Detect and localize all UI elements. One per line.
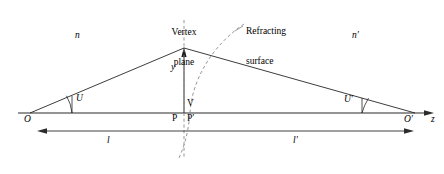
- vertex-plane-label: Vertex plane: [150, 6, 218, 88]
- refracting-surface-leader: [235, 26, 243, 31]
- refracting-surface-label-line1: Refracting: [246, 26, 326, 36]
- angle-u-arc: [67, 96, 73, 113]
- distance-l-prime-arrowhead: [404, 128, 414, 134]
- height-y-label: y: [171, 62, 175, 72]
- refracting-surface-label-line2: surface: [246, 56, 326, 66]
- foot-left-label: P: [172, 113, 177, 123]
- object-point-label: O: [24, 114, 31, 124]
- distance-l-prime-label: l′: [293, 135, 298, 145]
- refracting-surface-label: Refracting surface: [246, 5, 326, 87]
- index-right-label: n′: [352, 30, 359, 40]
- image-point-label: O′: [404, 114, 413, 124]
- vertex-plane-label-line2: plane: [150, 57, 218, 67]
- diagram-canvas: [0, 0, 444, 174]
- foot-right-label: P′: [187, 113, 194, 123]
- axis-label: z: [431, 114, 435, 124]
- vertex-plane-label-line1: Vertex: [150, 27, 218, 37]
- vertex-label: V: [187, 98, 194, 108]
- index-left-label: n: [75, 30, 80, 40]
- angle-u-label: U: [76, 93, 83, 103]
- optics-ray-diagram: Vertex plane Refracting surface n n′ y U…: [0, 0, 444, 174]
- distance-l-label: l: [107, 135, 110, 145]
- angle-u-prime-label: U′: [344, 94, 353, 104]
- angle-u-prime-arc: [362, 98, 369, 113]
- distance-l-arrowhead: [37, 128, 47, 134]
